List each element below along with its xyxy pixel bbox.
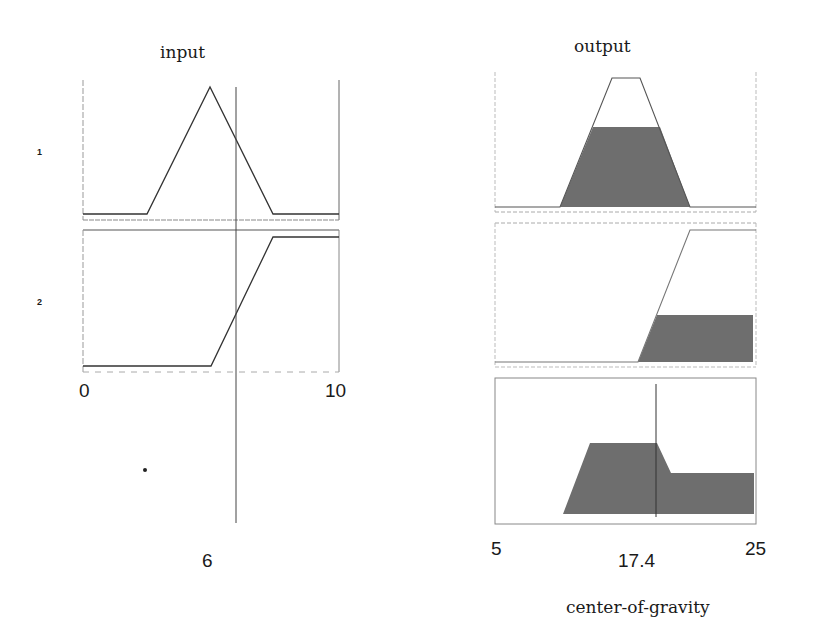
stray-dot — [143, 468, 147, 472]
output-tick-max: 25 — [745, 538, 766, 560]
input-tick-min: 0 — [79, 380, 90, 402]
output-panel-1 — [495, 72, 756, 212]
rule-2-membership-ramp — [83, 237, 339, 366]
input-panel-2 — [83, 230, 339, 372]
rule-1-membership-triangle — [83, 87, 339, 214]
defuzzification-method: center-of-gravity — [566, 597, 710, 617]
output-tick-min: 5 — [491, 538, 502, 560]
output-panel-2 — [495, 223, 756, 367]
fuzzy-inference-chart — [0, 0, 813, 644]
rule-1-clipped-fill — [560, 127, 690, 207]
output-tick-mid: 17.4 — [618, 550, 655, 572]
input-tick-max: 10 — [325, 380, 346, 402]
rule-2-clipped-fill — [638, 315, 753, 362]
output-panel-3 — [495, 378, 756, 524]
crisp-input-value: 6 — [202, 550, 213, 572]
input-panel-1 — [83, 80, 339, 220]
aggregated-output-fill — [563, 443, 754, 514]
